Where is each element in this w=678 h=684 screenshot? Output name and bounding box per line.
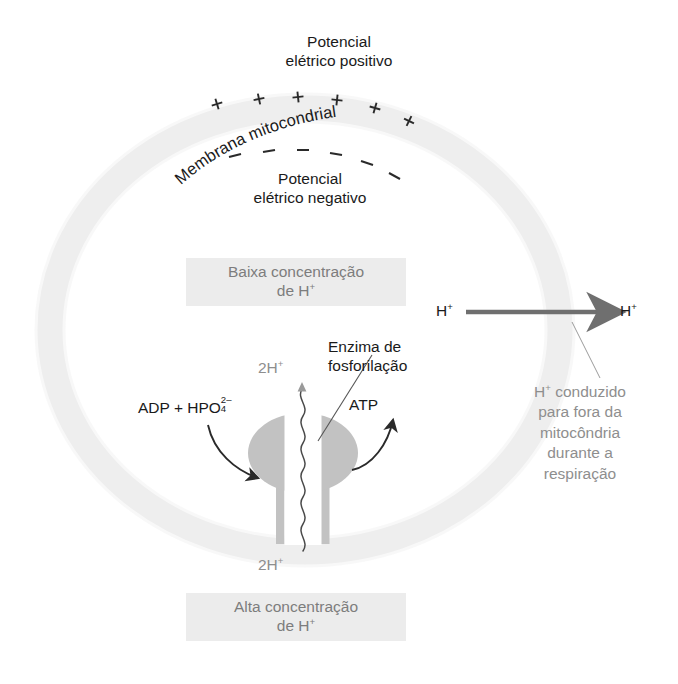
outer-potential-label: Potencial elétrico positivo — [0, 33, 678, 71]
inner-potential-label: Potencial elétrico negativo — [150, 170, 470, 208]
figure-canvas: Membrana mitocondrial — [0, 0, 678, 684]
enzyme-label: Enzima de fosforilação — [328, 338, 508, 376]
proton-up-arrowhead — [298, 382, 307, 392]
atp-output-arrow — [352, 420, 393, 470]
proton-top-label: 2H+ — [258, 359, 328, 378]
proton-inside-label: H+ — [436, 302, 476, 321]
substrate-label: ADP + HPO2–4 — [138, 397, 338, 417]
efflux-leader-line — [572, 322, 600, 378]
proton-bottom-label: 2H+ — [258, 556, 328, 575]
efflux-caption: H+ conduzido para fora da mitocôndria du… — [492, 382, 668, 484]
proton-outside-label: H+ — [620, 302, 660, 321]
atp-label: ATP — [349, 396, 419, 415]
high-concentration-box: Alta concentração de H+ — [186, 593, 406, 641]
low-concentration-box: Baixa concentração de H+ — [186, 258, 406, 306]
